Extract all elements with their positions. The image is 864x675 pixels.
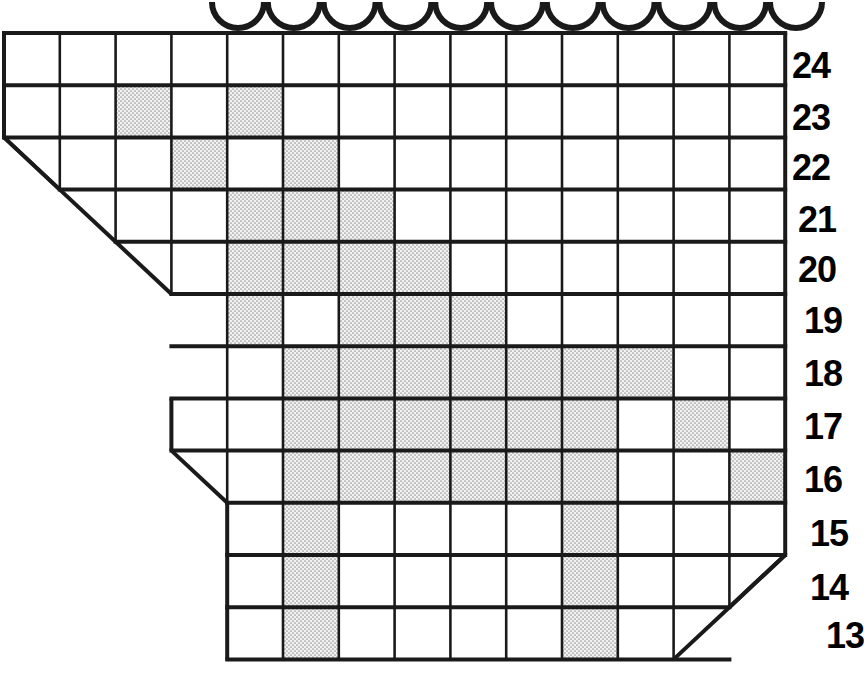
cell-filled-r13-c11	[562, 607, 618, 659]
cell-filled-r20-c6	[283, 242, 339, 294]
scallop-arc-1	[212, 2, 264, 28]
cell-filled-r19-c9	[450, 294, 506, 346]
row-label-19: 19	[804, 303, 842, 339]
cell-filled-r15-c11	[562, 503, 618, 555]
scallop-arc-9	[658, 2, 710, 28]
scallop-arc-row	[212, 2, 822, 28]
cell-filled-r16-c7	[339, 451, 395, 503]
cell-filled-r18-c11	[562, 346, 618, 398]
cell-filled-r19-c5	[227, 294, 283, 346]
cell-filled-r18-c12	[618, 346, 674, 398]
scallop-arc-8	[603, 2, 655, 28]
cell-filled-r16-c9	[450, 451, 506, 503]
cell-filled-r20-c7	[339, 242, 395, 294]
cell-filled-r16-c10	[506, 451, 562, 503]
right-diagonal-15	[729, 555, 785, 607]
cell-filled-r16-c6	[283, 451, 339, 503]
cell-filled-r18-c10	[506, 346, 562, 398]
left-diagonal-21	[60, 190, 116, 242]
cell-filled-r14-c11	[562, 555, 618, 607]
scallop-arc-10	[714, 2, 766, 28]
left-diagonal-22	[4, 137, 60, 189]
cell-filled-r21-c7	[339, 190, 395, 242]
row-label-20: 20	[798, 252, 836, 288]
cell-filled-r16-c8	[395, 451, 451, 503]
cell-filled-r17-c8	[395, 398, 451, 450]
row-label-23: 23	[792, 100, 830, 136]
cell-filled-r23-c5	[227, 85, 283, 137]
right-diagonal-13	[674, 607, 730, 659]
cell-filled-r18-c6	[283, 346, 339, 398]
cell-filled-r13-c6	[283, 607, 339, 659]
cell-filled-r14-c6	[283, 555, 339, 607]
row-label-22: 22	[792, 150, 830, 186]
scallop-arc-5	[435, 2, 487, 28]
cell-filled-r16-c14	[729, 451, 785, 503]
row-label-14: 14	[810, 570, 848, 606]
left-diagonal-20	[116, 242, 172, 294]
row-label-16: 16	[804, 462, 842, 498]
cell-filled-r17-c10	[506, 398, 562, 450]
row-label-24: 24	[792, 48, 830, 84]
cell-filled-r17-c13	[674, 398, 730, 450]
scallop-arc-3	[324, 2, 376, 28]
cell-filled-r21-c6	[283, 190, 339, 242]
scallop-arc-2	[268, 2, 320, 28]
cell-filled-r18-c8	[395, 346, 451, 398]
cell-filled-r20-c8	[395, 242, 451, 294]
cell-filled-r16-c11	[562, 451, 618, 503]
cell-filled-r21-c5	[227, 190, 283, 242]
cell-filled-r18-c7	[339, 346, 395, 398]
left-diagonal-16	[171, 451, 227, 503]
cell-filled-r17-c6	[283, 398, 339, 450]
cell-filled-r23-c3	[116, 85, 172, 137]
row-label-17: 17	[804, 409, 842, 445]
row-label-15: 15	[810, 516, 848, 552]
cell-filled-r20-c5	[227, 242, 283, 294]
cell-filled-r17-c7	[339, 398, 395, 450]
cell-filled-r19-c8	[395, 294, 451, 346]
scallop-arc-7	[547, 2, 599, 28]
scallop-arc-4	[379, 2, 431, 28]
cell-filled-r18-c9	[450, 346, 506, 398]
row-label-13: 13	[826, 618, 864, 654]
scallop-arc-6	[491, 2, 543, 28]
row-label-21: 21	[798, 202, 836, 238]
cell-filled-r17-c11	[562, 398, 618, 450]
cell-filled-r19-c7	[339, 294, 395, 346]
cell-filled-r17-c9	[450, 398, 506, 450]
cell-filled-r22-c6	[283, 137, 339, 189]
cell-filled-r22-c4	[171, 137, 227, 189]
scallop-arc-11	[770, 2, 822, 28]
row-label-18: 18	[804, 356, 842, 392]
cell-filled-r15-c6	[283, 503, 339, 555]
